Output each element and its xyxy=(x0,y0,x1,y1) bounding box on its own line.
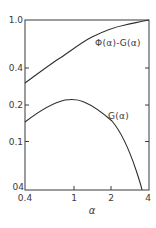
y-tick-label: 0.4 xyxy=(9,63,24,73)
y-ticks xyxy=(25,68,149,142)
log-log-chart: 1.0 0.4 0.2 0.1 04 0.4 1 2 4 α Φ(α)-G(α)… xyxy=(0,0,156,228)
x-axis-label: α xyxy=(89,205,96,216)
x-tick-label: 1 xyxy=(71,193,77,203)
x-tick-label: 4 xyxy=(145,193,151,203)
g-label: G(α) xyxy=(108,111,129,121)
phi-minus-g-curve xyxy=(25,20,149,83)
y-tick-label: 1.0 xyxy=(9,15,24,25)
x-tick-labels: 0.4 1 2 4 xyxy=(18,193,151,203)
x-tick-label: 2 xyxy=(108,193,114,203)
y-tick-label: 0.2 xyxy=(9,100,23,110)
x-tick-label: 0.4 xyxy=(18,193,33,203)
phi-minus-g-label: Φ(α)-G(α) xyxy=(95,38,141,48)
y-tick-label: 04 xyxy=(13,182,25,192)
y-tick-label: 0.1 xyxy=(9,137,23,147)
x-ticks xyxy=(74,186,111,190)
y-tick-labels: 1.0 0.4 0.2 0.1 04 xyxy=(9,15,25,192)
